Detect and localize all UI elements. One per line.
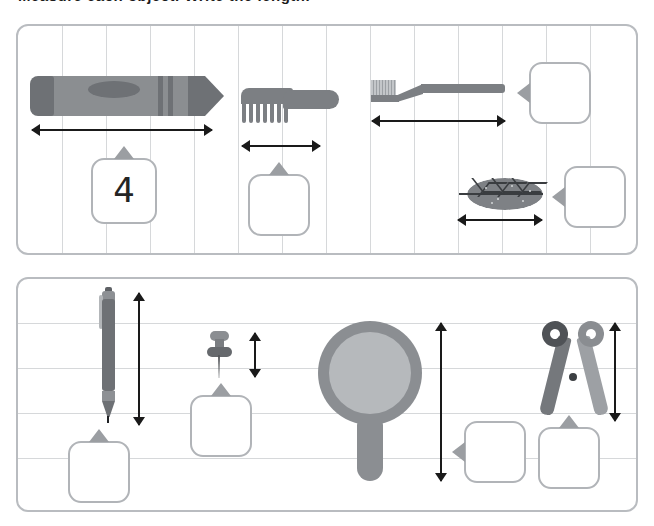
crayon-answer-value: 4 [93, 170, 155, 210]
magnifier-lens [329, 332, 411, 414]
thumbtack-answer-box[interactable] [190, 395, 252, 457]
pen-cone [102, 401, 115, 417]
scissors-answer-box[interactable] [538, 427, 600, 489]
grid-line-vertical [62, 26, 63, 253]
crayon-end-cap [30, 76, 54, 116]
magnifier-answer-tail [452, 442, 465, 462]
crayon-answer-tail [114, 146, 134, 159]
toothbrush-answer-tail [517, 83, 530, 103]
thumbtack-illustration [204, 331, 236, 379]
pen-grip [102, 391, 115, 401]
toothbrush-head [371, 95, 399, 102]
grid-line-vertical [546, 26, 547, 253]
leaf-illustration [467, 178, 543, 210]
leaf-answer-box[interactable] [564, 166, 626, 228]
pen-answer-tail [89, 429, 109, 442]
comb-measurement-arrow [242, 145, 320, 147]
toothbrush-bristles [371, 80, 396, 95]
pen-measurement-arrow [138, 293, 140, 425]
crayon-band [168, 76, 173, 116]
worksheet-heading-strip: Measure each object. Write the length. [0, 0, 654, 9]
pen-answer-box[interactable] [68, 441, 130, 503]
grid-line-vertical [414, 26, 415, 253]
toothbrush-handle [421, 84, 505, 93]
thumbtack-pin [218, 355, 220, 378]
pen-illustration [96, 291, 122, 425]
magnifier-answer-box[interactable] [464, 421, 526, 483]
comb-answer-box[interactable] [248, 174, 310, 236]
grid-line-vertical [194, 26, 195, 253]
comb-answer-tail [269, 162, 289, 175]
pen-barrel [102, 299, 115, 391]
magnifier-measurement-arrow [440, 323, 442, 481]
leaf-measurement-arrow [458, 219, 542, 221]
crayon-measurement-arrow [32, 129, 212, 131]
crayon-answer-box[interactable]: 4 [91, 158, 157, 224]
toothbrush-illustration [371, 80, 507, 105]
toothbrush-answer-box[interactable] [529, 62, 591, 124]
scissors-illustration [536, 321, 612, 421]
toothbrush-measurement-arrow [372, 120, 505, 122]
crayon-band [158, 76, 163, 116]
grid-line-vertical [370, 26, 371, 253]
grid-line-vertical [238, 26, 239, 253]
leaf-answer-tail [552, 187, 565, 207]
crayon-illustration [30, 76, 226, 116]
comb-teeth [242, 102, 292, 123]
scissors-pivot [569, 373, 577, 381]
worksheet-page: Measure each object. Write the length. 4 [0, 0, 654, 526]
magnifier-handle [357, 419, 383, 481]
scissors-answer-tail [559, 415, 579, 428]
crayon-tip [188, 76, 224, 116]
scissors-blade-right [576, 335, 609, 416]
crayon-label-oval [88, 81, 140, 98]
vertical-measurement-panel [16, 277, 638, 512]
worksheet-heading: Measure each object. Write the length. [18, 0, 310, 4]
thumbtack-measurement-arrow [254, 333, 256, 377]
pen-nib [107, 416, 109, 423]
horizontal-measurement-panel: 4 [16, 24, 638, 255]
magnifying-glass-illustration [318, 321, 422, 481]
scissors-measurement-arrow [614, 323, 616, 421]
scissors-blade-left [539, 335, 572, 416]
grid-line-vertical [326, 26, 327, 253]
comb-illustration [241, 86, 341, 126]
toothbrush-neck [397, 84, 423, 102]
thumbtack-answer-tail [211, 383, 231, 396]
